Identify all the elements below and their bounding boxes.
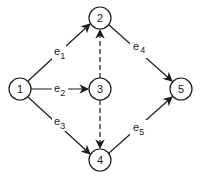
node-3: 3 xyxy=(89,78,111,100)
node-4: 4 xyxy=(89,149,111,171)
svg-text:2: 2 xyxy=(97,12,103,24)
svg-text:3: 3 xyxy=(97,83,103,95)
svg-text:1: 1 xyxy=(17,83,23,95)
node-5: 5 xyxy=(170,78,192,100)
svg-text:4: 4 xyxy=(97,154,103,166)
node-1: 1 xyxy=(9,78,31,100)
graph-diagram: e1 e2 e3 e4 e5 1 2 3 4 5 xyxy=(0,0,207,180)
svg-text:5: 5 xyxy=(178,83,184,95)
node-2: 2 xyxy=(89,7,111,29)
graph-svg: e1 e2 e3 e4 e5 1 2 3 4 5 xyxy=(0,0,207,180)
